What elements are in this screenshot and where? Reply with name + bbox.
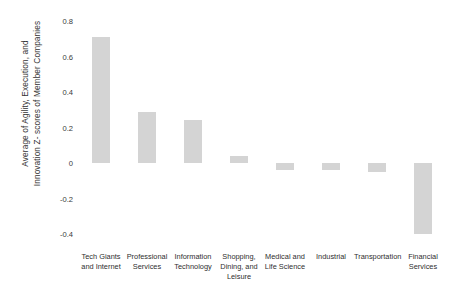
x-axis-category-label: Medical andLife Science (262, 252, 308, 272)
x-axis-category-label: FinancialServices (400, 252, 446, 272)
bar[interactable] (368, 163, 386, 172)
bar[interactable] (322, 163, 340, 170)
bar-slot (216, 21, 262, 234)
y-axis-tick-label: 0.8 (62, 17, 73, 26)
y-axis-tick-label: -0.4 (60, 230, 73, 239)
bar-slot (170, 21, 216, 234)
category-label-line: Tech Giants (78, 252, 124, 262)
category-label-line: Financial (400, 252, 446, 262)
y-axis-tick-label: -0.2 (60, 194, 73, 203)
y-axis-tick-label: 0.6 (62, 52, 73, 61)
x-axis-category-label: Tech Giantsand Internet (78, 252, 124, 272)
category-label-line: Services (124, 262, 170, 272)
y-axis-tick-label: 0 (69, 159, 73, 168)
bar[interactable] (414, 163, 432, 234)
category-label-line: Transportation (354, 252, 400, 262)
x-axis-category-labels: Tech Giantsand InternetProfessionalServi… (78, 252, 446, 299)
bar[interactable] (138, 112, 156, 163)
bar[interactable] (184, 120, 202, 163)
bar-slot (124, 21, 170, 234)
category-label-line: Life Science (262, 262, 308, 272)
bar-chart: Average of Agility, Execution, and Innov… (0, 0, 454, 299)
bar[interactable] (276, 163, 294, 170)
bar-slot (262, 21, 308, 234)
y-axis-title-line-1: Average of Agility, Execution, and (20, 0, 32, 220)
y-axis-tick-label: 0.4 (62, 88, 73, 97)
category-label-line: Dining, and (216, 262, 262, 272)
category-label-line: Leisure (216, 272, 262, 282)
category-label-line: Services (400, 262, 446, 272)
x-axis-category-label: Industrial (308, 252, 354, 262)
y-axis-title-line-2: Innovation Z- scores of Member Companies (31, 0, 43, 220)
category-label-line: and Internet (78, 262, 124, 272)
category-label-line: Information (170, 252, 216, 262)
category-label-line: Medical and (262, 252, 308, 262)
bar[interactable] (230, 156, 248, 163)
x-axis-category-label: Transportation (354, 252, 400, 262)
plot-area: 0.80.60.40.20-0.2-0.4 (78, 21, 446, 234)
y-axis-tick-label: 0.2 (62, 123, 73, 132)
x-axis-category-label: InformationTechnology (170, 252, 216, 272)
bar-slot (400, 21, 446, 234)
bar-slot (78, 21, 124, 234)
y-axis-title: Average of Agility, Execution, and Innov… (20, 0, 43, 220)
x-axis-category-label: ProfessionalServices (124, 252, 170, 272)
category-label-line: Shopping, (216, 252, 262, 262)
bar-slot (354, 21, 400, 234)
category-label-line: Professional (124, 252, 170, 262)
bar[interactable] (92, 37, 110, 163)
category-label-line: Industrial (308, 252, 354, 262)
bar-slot (308, 21, 354, 234)
category-label-line: Technology (170, 262, 216, 272)
x-axis-category-label: Shopping,Dining, andLeisure (216, 252, 262, 283)
